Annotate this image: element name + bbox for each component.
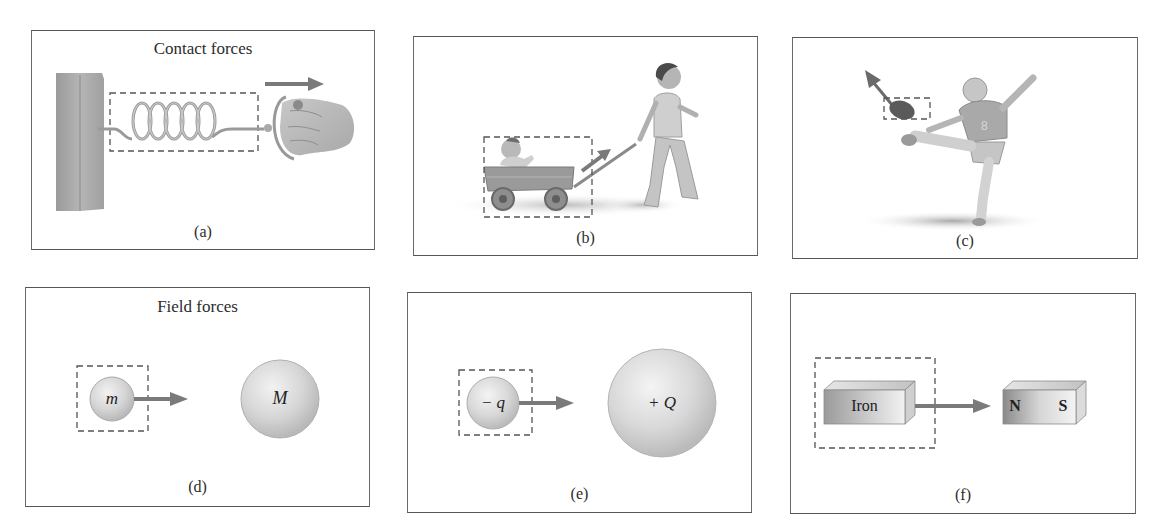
panel-caption-d: (d) (26, 478, 369, 496)
spring-illustration (32, 31, 376, 251)
force-arrow-icon (265, 77, 324, 91)
small-mass-label: m (92, 389, 132, 409)
contact-forces-heading: Contact forces (32, 39, 374, 59)
panel-d-gravity: Field forces m M (d) (25, 287, 370, 507)
wall-icon (56, 73, 104, 211)
force-arrow-icon (865, 70, 893, 106)
iron-label: Iron (834, 397, 895, 415)
panel-caption-e: (e) (408, 485, 751, 503)
panel-caption-c: (c) (793, 232, 1137, 250)
football-illustration: 8 (793, 38, 1139, 260)
svg-text:8: 8 (981, 119, 988, 133)
football-player-icon: 8 (901, 78, 1033, 226)
panel-c-football: 8 (c) (792, 37, 1138, 259)
negative-charge-label: − q (468, 393, 518, 413)
force-arrow-icon (915, 399, 991, 413)
panel-caption-f: (f) (791, 486, 1135, 504)
wagon-illustration (414, 37, 759, 257)
child-icon (602, 63, 698, 213)
magnet-north-label: N (1005, 397, 1025, 415)
positive-charge-label: + Q (632, 393, 692, 413)
force-arrow-icon (134, 392, 188, 406)
baby-icon (500, 137, 534, 169)
large-mass-label: M (260, 388, 300, 409)
force-arrow-icon (582, 149, 611, 171)
panel-f-magnetic: Iron N S (f) (790, 293, 1136, 514)
panel-e-electric: − q + Q (e) (407, 292, 752, 513)
panel-b-wagon: (b) (413, 36, 758, 256)
hand-icon (280, 99, 354, 156)
panel-a-spring: Contact forces (a) (31, 30, 375, 250)
force-arrow-icon (519, 396, 574, 410)
magnet-south-label: S (1053, 397, 1073, 415)
gravity-illustration (26, 288, 371, 508)
field-forces-heading: Field forces (26, 297, 369, 317)
panel-caption-b: (b) (414, 229, 757, 247)
panel-caption-a: (a) (32, 223, 374, 241)
electric-illustration (408, 293, 753, 514)
